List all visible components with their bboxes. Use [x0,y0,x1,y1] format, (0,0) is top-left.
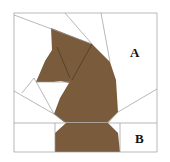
knight-body [36,28,118,122]
region-label-b: B [135,131,144,146]
region-label-a: A [130,45,140,60]
knight-quilt-diagram: A B [0,0,170,162]
knight-base [55,123,120,152]
